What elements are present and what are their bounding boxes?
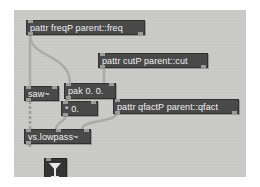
vs-lowpass-label: vs.lowpass~ — [28, 131, 87, 143]
pattr-freqp-object[interactable]: pattr freqP parent::freq — [26, 20, 145, 35]
outlet-nub[interactable] — [115, 111, 120, 114]
outlet-nub[interactable] — [232, 111, 237, 114]
inlet-nub[interactable] — [46, 158, 51, 161]
patcher-window: pattr freqP parent::freq pattr cutP pare… — [0, 0, 260, 187]
pattr-cutp-label: pattr cutP parent::cut — [102, 55, 204, 67]
pak-label: pak 0. 0. — [68, 85, 112, 97]
saw-label: saw~ — [28, 88, 55, 100]
multiply-object[interactable]: * 0. — [61, 101, 98, 116]
saw-object[interactable]: saw~ — [24, 86, 59, 101]
inlet-nub[interactable] — [52, 86, 57, 89]
outlet-nub[interactable] — [26, 141, 31, 144]
patcher-canvas[interactable]: pattr freqP parent::freq pattr cutP pare… — [14, 10, 246, 177]
inlet-nub[interactable] — [28, 20, 33, 23]
pattr-qfactp-label: pattr qfactP parent::qfact — [117, 101, 235, 113]
outlet-nub[interactable] — [138, 32, 143, 35]
inlet-nub[interactable] — [26, 86, 31, 89]
vs-lowpass-object[interactable]: vs.lowpass~ — [24, 129, 91, 144]
speaker-icon-base — [51, 176, 59, 177]
inlet-nub[interactable] — [26, 129, 31, 132]
inlet-nub[interactable] — [115, 99, 120, 102]
inlet-nub[interactable] — [100, 53, 105, 56]
pattr-cutp-object[interactable]: pattr cutP parent::cut — [98, 53, 208, 68]
cord-qfactp-to-lowpass — [82, 114, 116, 129]
inlet-nub[interactable] — [56, 129, 61, 132]
pattr-qfactp-object[interactable]: pattr qfactP parent::qfact — [113, 99, 239, 114]
outlet-nub[interactable] — [26, 98, 31, 101]
ezdac-widget[interactable]: 1 — [44, 158, 67, 177]
outlet-nub[interactable] — [66, 96, 71, 99]
cord-freqp-to-pak — [30, 35, 70, 83]
inlet-nub[interactable] — [63, 101, 68, 104]
outlet-nub[interactable] — [100, 65, 105, 68]
outlet-nub[interactable] — [63, 113, 68, 116]
outlet-nub[interactable] — [28, 32, 33, 35]
pak-object[interactable]: pak 0. 0. — [64, 83, 116, 99]
inlet-nub[interactable] — [66, 83, 71, 86]
outlet-nub[interactable] — [201, 65, 206, 68]
inlet-nub[interactable] — [84, 129, 89, 132]
pattr-freqp-label: pattr freqP parent::freq — [30, 22, 141, 34]
inlet-nub[interactable] — [91, 101, 96, 104]
multiply-label: * 0. — [65, 103, 94, 115]
inlet-nub[interactable] — [109, 83, 114, 86]
cord-multiply-to-lowpass — [56, 115, 66, 129]
